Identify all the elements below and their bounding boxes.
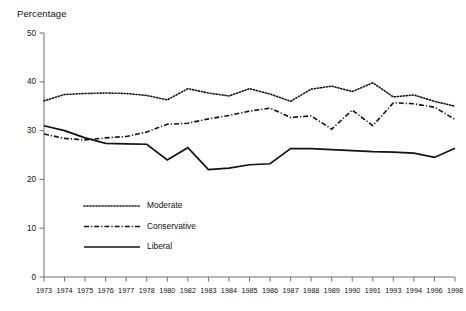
line-chart: Percentage 01020304050 19731974197519761… <box>0 0 466 311</box>
x-tick-label: 1987 <box>282 286 298 295</box>
x-tick-label: 1977 <box>118 286 134 295</box>
x-tick-label: 1983 <box>200 286 216 295</box>
y-tick-label: 30 <box>27 126 37 135</box>
y-tick-label: 40 <box>27 77 37 86</box>
x-tick-label: 1998 <box>447 286 463 295</box>
series-line-liberal <box>44 126 455 170</box>
series-container <box>44 83 455 170</box>
series-line-conservative <box>44 103 455 140</box>
x-tick-label: 1988 <box>303 286 319 295</box>
x-tick-label: 1994 <box>406 286 422 295</box>
chart-canvas: 01020304050 1973197419751976197719781980… <box>0 0 466 311</box>
x-tick-label: 1991 <box>365 286 381 295</box>
x-tick-label: 1978 <box>139 286 155 295</box>
x-tick-label: 1986 <box>262 286 278 295</box>
x-tick-label: 1976 <box>98 286 114 295</box>
x-tick-label: 1982 <box>180 286 196 295</box>
x-tick-label: 1985 <box>241 286 257 295</box>
legend-label-moderate: Moderate <box>147 200 183 210</box>
x-tick-label: 1989 <box>324 286 340 295</box>
chart-legend: ModerateConservativeLiberal <box>84 200 196 251</box>
legend-label-conservative: Conservative <box>147 221 196 231</box>
y-tick-label: 20 <box>27 175 37 184</box>
x-tick-label: 1990 <box>344 286 360 295</box>
x-tick-label: 1993 <box>385 286 401 295</box>
y-tick-label: 0 <box>31 273 36 282</box>
x-tick-label: 1980 <box>159 286 175 295</box>
x-tick-label: 1974 <box>56 286 72 295</box>
x-tick-label: 1973 <box>36 286 52 295</box>
x-tick-label: 1996 <box>426 286 442 295</box>
x-tick-label: 1984 <box>221 286 237 295</box>
y-axis: 01020304050 <box>27 29 44 282</box>
x-axis: 1973197419751976197719781980198219831984… <box>36 277 463 295</box>
legend-label-liberal: Liberal <box>147 241 172 251</box>
y-tick-label: 50 <box>27 29 37 38</box>
x-tick-label: 1975 <box>77 286 93 295</box>
y-tick-label: 10 <box>27 224 37 233</box>
